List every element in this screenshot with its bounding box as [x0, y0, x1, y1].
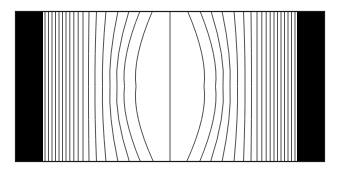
- figure-container: [0, 0, 339, 174]
- field-line-12: [88, 11, 89, 162]
- field-line-26: [251, 11, 252, 162]
- right-electrode: [297, 11, 325, 162]
- field-line-diagram: [0, 0, 339, 174]
- left-electrode: [15, 11, 43, 162]
